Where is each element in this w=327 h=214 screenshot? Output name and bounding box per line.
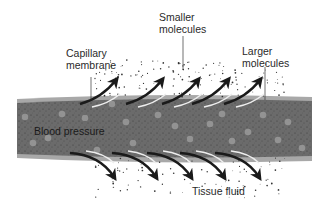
smaller-molecule [261, 166, 262, 167]
smaller-molecule [238, 94, 239, 95]
smaller-molecule [225, 181, 226, 182]
smaller-molecule [260, 184, 261, 185]
smaller-molecule [269, 164, 270, 165]
smaller-molecule [209, 75, 211, 77]
smaller-molecule [173, 71, 175, 73]
smaller-molecule [276, 72, 277, 73]
smaller-molecule [143, 83, 144, 84]
smaller-molecule [244, 168, 245, 169]
smaller-molecule [236, 79, 237, 80]
smaller-molecule [124, 86, 126, 88]
smaller-molecule [173, 78, 175, 80]
smaller-molecule [252, 92, 253, 93]
smaller-molecule [95, 196, 96, 197]
smaller-molecule [188, 68, 189, 69]
smaller-molecule [191, 160, 192, 161]
smaller-molecule [154, 190, 156, 192]
smaller-molecule [205, 64, 207, 66]
smaller-molecule [95, 166, 97, 168]
smaller-molecule [123, 172, 124, 173]
smaller-molecule [160, 68, 162, 70]
larger-molecule [123, 119, 130, 126]
smaller-molecule [232, 170, 233, 171]
smaller-molecule [266, 185, 268, 187]
smaller-molecule [179, 93, 181, 95]
smaller-molecule [182, 79, 184, 81]
smaller-molecule [96, 73, 97, 74]
smaller-molecule [262, 77, 263, 78]
smaller-molecule [246, 171, 247, 172]
smaller-molecule [284, 158, 285, 159]
smaller-molecule [170, 191, 171, 192]
smaller-molecule [188, 81, 189, 82]
smaller-molecule [275, 82, 276, 83]
smaller-molecule [235, 72, 237, 74]
smaller-molecule [118, 74, 120, 76]
smaller-molecule [278, 94, 280, 96]
smaller-molecule [235, 77, 236, 78]
larger-molecule [172, 123, 179, 130]
label-line: Capillary [66, 47, 116, 59]
smaller-molecule [211, 80, 212, 81]
smaller-molecule [170, 192, 172, 194]
smaller-molecule [95, 83, 96, 84]
smaller-molecule [110, 95, 111, 96]
smaller-molecule [128, 160, 129, 161]
larger-molecule [260, 112, 267, 119]
smaller-molecule [224, 86, 225, 87]
smaller-molecule [277, 79, 278, 80]
label-line: molecules [159, 23, 206, 35]
smaller-molecule [190, 183, 191, 184]
smaller-molecule [112, 178, 113, 179]
smaller-molecule [182, 192, 183, 193]
smaller-molecule [255, 190, 257, 192]
smaller-molecule [122, 65, 123, 66]
smaller-molecule [220, 78, 221, 79]
larger-molecule [299, 145, 306, 152]
smaller-molecule [267, 179, 268, 180]
smaller-molecule [113, 187, 114, 188]
smaller-molecule [98, 165, 99, 166]
smaller-molecule [112, 73, 113, 74]
larger-molecule [187, 136, 194, 143]
smaller-molecule [139, 85, 140, 86]
larger-molecule [229, 138, 236, 145]
larger-molecule [30, 140, 37, 147]
smaller-molecule [141, 76, 142, 77]
smaller-molecule [180, 76, 181, 77]
smaller-molecule [120, 158, 122, 160]
smaller-molecule [233, 161, 234, 162]
smaller-molecule [117, 76, 119, 78]
smaller-molecule [281, 168, 282, 169]
smaller-molecule [147, 73, 148, 74]
smaller-molecule [162, 62, 164, 64]
smaller-molecule [222, 73, 224, 75]
smaller-molecule [141, 61, 142, 62]
smaller-molecule [189, 94, 190, 95]
smaller-molecule [121, 66, 122, 67]
smaller-molecule [277, 83, 278, 84]
smaller-molecule [170, 168, 171, 169]
smaller-molecule [279, 160, 281, 162]
smaller-molecule [173, 173, 175, 175]
smaller-molecule [218, 65, 219, 66]
smaller-molecule [180, 63, 181, 64]
smaller-molecules-label: Smaller molecules [159, 11, 206, 35]
smaller-molecule [142, 170, 144, 172]
smaller-molecule [274, 90, 275, 91]
smaller-molecule [112, 177, 113, 178]
smaller-molecule [94, 78, 95, 79]
larger-molecule [82, 115, 89, 122]
smaller-molecule [259, 76, 260, 77]
smaller-molecule [111, 71, 112, 72]
smaller-molecule [115, 78, 116, 79]
smaller-molecule [236, 84, 237, 85]
smaller-molecule [239, 166, 240, 167]
blood-pressure-label: Blood pressure [34, 125, 105, 137]
smaller-molecule [245, 86, 246, 87]
smaller-molecule [237, 89, 238, 90]
smaller-molecule [162, 184, 163, 185]
label-line: Smaller [159, 11, 206, 23]
smaller-molecule [153, 83, 154, 84]
smaller-molecule [173, 85, 174, 86]
